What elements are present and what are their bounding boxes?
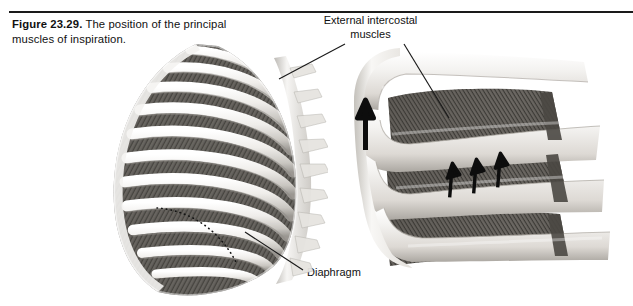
illustration-rib-cage xyxy=(78,40,328,298)
rib-cage-drawing xyxy=(78,40,328,298)
illustration-intercostal-closeup xyxy=(352,48,633,270)
figure-number: Figure 23.29. xyxy=(12,18,82,30)
label-external-intercostal-muscles: External intercostal muscles xyxy=(303,14,438,41)
figure-container: Figure 23.29. The position of the princi… xyxy=(0,0,633,306)
intercostal-closeup-drawing xyxy=(352,48,633,270)
figure-top-rule xyxy=(9,11,633,13)
